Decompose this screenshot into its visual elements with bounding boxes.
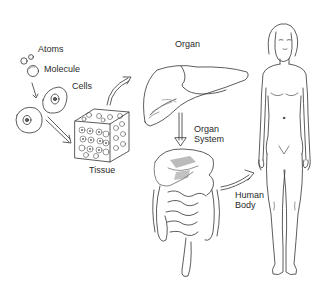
label-organ-system-line2: System xyxy=(194,134,224,144)
arrow-system-to-body-icon xyxy=(221,170,254,190)
label-cells: Cells xyxy=(72,81,92,91)
arrow-tissue-to-organ-icon xyxy=(107,77,131,105)
label-human-body-line2: Body xyxy=(235,200,256,210)
molecule-illustration xyxy=(28,66,39,77)
label-atoms: Atoms xyxy=(38,44,64,54)
cell-lower-illustration xyxy=(16,107,42,133)
human-body-illustration xyxy=(259,24,311,275)
label-tissue: Tissue xyxy=(89,165,115,175)
cell-upper-illustration xyxy=(43,87,67,113)
label-organ-system-line1: Organ xyxy=(194,124,219,134)
organ-liver-illustration xyxy=(144,66,249,126)
arrow-molecule-to-cells-icon xyxy=(32,83,38,98)
tissue-cube-illustration xyxy=(75,109,129,162)
arrow-cells-to-tissue-icon xyxy=(46,117,71,143)
levels-of-organization-diagram: Atoms Molecule Cells Tissue Organ Organ … xyxy=(0,0,332,290)
organ-system-digestive-illustration xyxy=(153,149,220,276)
label-organ: Organ xyxy=(175,39,200,49)
label-human-body-line1: Human xyxy=(235,190,264,200)
atoms-illustration xyxy=(21,55,34,65)
arrow-organ-to-system-icon xyxy=(175,113,186,146)
label-molecule: Molecule xyxy=(44,64,80,74)
